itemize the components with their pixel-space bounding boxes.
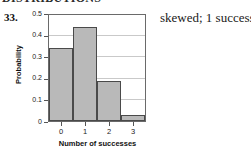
bar [49, 48, 73, 121]
bar [73, 27, 97, 121]
plot-area [48, 14, 146, 122]
y-axis-tick-label: 0 [18, 118, 42, 125]
y-axis-tick-label: 0.5 [18, 10, 42, 17]
y-axis-tick-mark [44, 122, 48, 123]
x-axis-tick-mark [109, 122, 110, 126]
x-axis-title: Number of successes [40, 139, 155, 148]
bar [121, 115, 145, 121]
gridline [49, 35, 145, 36]
x-axis-tick-label: 3 [123, 127, 143, 136]
y-axis-tick-label: 0.1 [18, 96, 42, 103]
y-axis-title: Probability [14, 35, 23, 95]
probability-histogram-figure: 00.10.20.30.40.5 0123 Number of successe… [0, 0, 160, 152]
x-axis-tick-mark [85, 122, 86, 126]
x-axis-tick-mark [61, 122, 62, 126]
x-axis-tick-label: 1 [75, 127, 95, 136]
x-axis-tick-label: 0 [51, 127, 71, 136]
bar [97, 81, 121, 121]
x-axis-tick-mark [133, 122, 134, 126]
answer-text: skewed; 1 success [160, 10, 251, 26]
x-axis-tick-label: 2 [99, 127, 119, 136]
